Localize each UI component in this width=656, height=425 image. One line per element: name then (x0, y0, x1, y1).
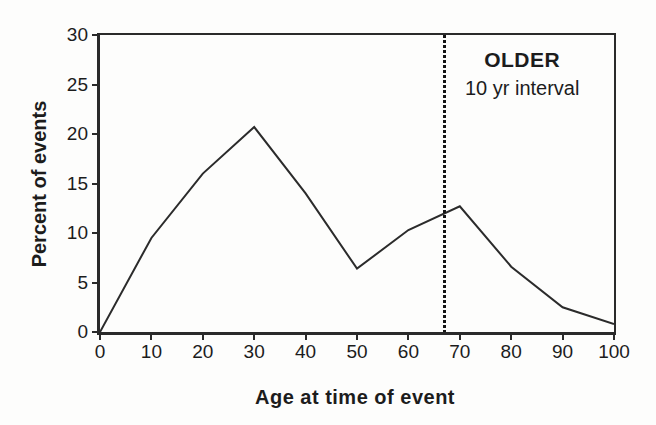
x-tick-mark (407, 335, 409, 340)
x-tick-mark (356, 335, 358, 340)
x-tick-label: 80 (501, 341, 522, 363)
y-tick-mark (92, 183, 97, 185)
y-tick-mark (92, 331, 97, 333)
y-tick-label: 15 (46, 173, 88, 195)
x-tick-mark (253, 335, 255, 340)
y-tick-mark (92, 84, 97, 86)
y-tick-mark (92, 133, 97, 135)
chart-figure: Percent of events OLDER 10 yr interval A… (0, 0, 656, 425)
annotation-block: OLDER 10 yr interval (444, 48, 600, 101)
x-tick-mark (459, 335, 461, 340)
y-tick-label: 5 (46, 272, 88, 294)
x-tick-label: 90 (552, 341, 573, 363)
y-tick-label: 20 (46, 123, 88, 145)
x-tick-label: 30 (244, 341, 265, 363)
x-tick-label: 20 (192, 341, 213, 363)
y-tick-mark (92, 34, 97, 36)
x-tick-mark (202, 335, 204, 340)
x-tick-label: 60 (398, 341, 419, 363)
x-tick-label: 40 (295, 341, 316, 363)
x-tick-mark (150, 335, 152, 340)
annotation-interval-label: 10 yr interval (444, 75, 600, 101)
x-tick-label: 10 (141, 341, 162, 363)
x-tick-label: 100 (598, 341, 630, 363)
x-tick-label: 70 (449, 341, 470, 363)
y-tick-label: 25 (46, 74, 88, 96)
y-tick-label: 0 (46, 321, 88, 343)
y-tick-label: 10 (46, 222, 88, 244)
x-axis-title: Age at time of event (255, 386, 455, 409)
annotation-older-label: OLDER (444, 48, 600, 72)
x-tick-label: 50 (346, 341, 367, 363)
plot-area: OLDER 10 yr interval (97, 33, 616, 335)
x-tick-mark (562, 335, 564, 340)
x-tick-mark (510, 335, 512, 340)
y-tick-mark (92, 282, 97, 284)
y-tick-label: 30 (46, 24, 88, 46)
x-tick-mark (99, 335, 101, 340)
x-tick-label: 0 (95, 341, 106, 363)
y-tick-mark (92, 232, 97, 234)
x-tick-mark (305, 335, 307, 340)
x-tick-mark (613, 335, 615, 340)
